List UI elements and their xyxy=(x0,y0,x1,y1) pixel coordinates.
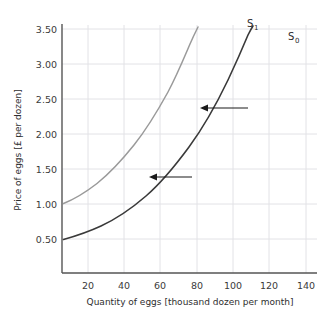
y-tick-labels: 3.50 3.00 2.50 2.00 1.50 1.00 0.50 xyxy=(36,24,57,245)
y-tick-label: 1.00 xyxy=(36,199,57,210)
curve-label-s0: S 0 xyxy=(288,31,299,45)
shift-arrow-upper xyxy=(200,105,248,112)
y-tick-label: 1.50 xyxy=(36,164,57,175)
curve-label-s0-subscript: 0 xyxy=(295,37,299,45)
supply-curve-chart: 3.50 3.00 2.50 2.00 1.50 1.00 0.50 20 40… xyxy=(0,0,332,319)
y-tick-label: 3.50 xyxy=(36,24,57,35)
x-tick-label: 40 xyxy=(118,280,130,291)
grid-horizontal xyxy=(62,29,317,239)
y-axis-title: Price of eggs [£ per dozen] xyxy=(13,89,23,210)
curve-label-s1-subscript: 1 xyxy=(254,24,258,32)
y-tick-label: 3.00 xyxy=(36,59,57,70)
x-tick-label: 100 xyxy=(224,280,242,291)
curve-label-s1: S 1 xyxy=(247,18,258,32)
shift-arrow-lower xyxy=(149,174,192,181)
x-tick-label: 60 xyxy=(154,280,166,291)
supply-curve-s0 xyxy=(64,26,254,240)
curve-label-s1-text: S xyxy=(247,18,253,29)
x-tick-labels: 20 40 60 80 100 120 140 xyxy=(82,280,315,291)
x-axis-title: Quantity of eggs [thousand dozen per mon… xyxy=(87,297,294,307)
curve-label-s0-text: S xyxy=(288,31,294,42)
y-tick-label: 2.50 xyxy=(36,94,57,105)
x-tick-label: 80 xyxy=(191,280,203,291)
y-tick-label: 2.00 xyxy=(36,129,57,140)
x-tick-label: 120 xyxy=(260,280,278,291)
x-tick-label: 140 xyxy=(297,280,315,291)
x-tick-label: 20 xyxy=(82,280,94,291)
chart-canvas: 3.50 3.00 2.50 2.00 1.50 1.00 0.50 20 40… xyxy=(0,0,332,319)
grid-vertical xyxy=(88,25,306,273)
y-tick-label: 0.50 xyxy=(36,234,57,245)
